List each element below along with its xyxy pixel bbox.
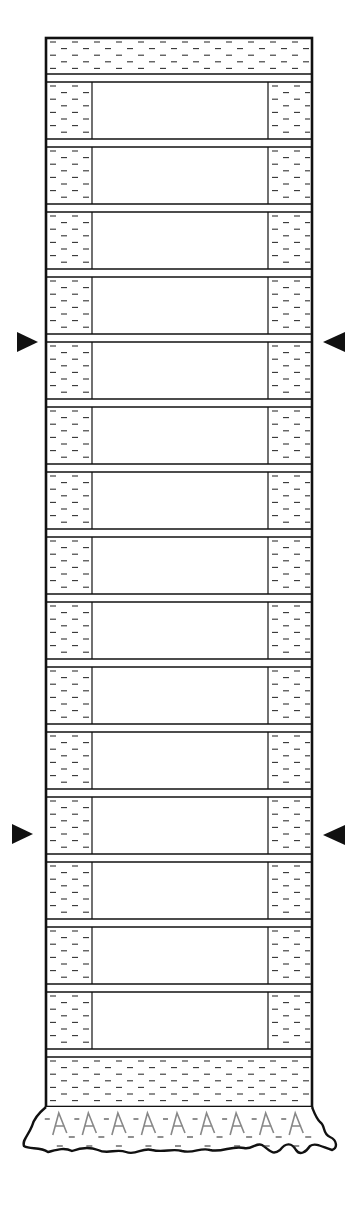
column-cell bbox=[46, 212, 312, 269]
column-frame bbox=[46, 38, 312, 1107]
cell-right-fill bbox=[272, 346, 310, 392]
cell-left-fill bbox=[50, 866, 89, 912]
column-cell bbox=[46, 82, 312, 139]
stratigraphic-column-diagram bbox=[0, 0, 345, 1221]
column-cell bbox=[46, 472, 312, 529]
right-pointing-triangle-icon bbox=[12, 824, 33, 844]
top-clay-band bbox=[50, 42, 309, 68]
cell-left-fill bbox=[50, 996, 89, 1042]
cell-right-fill bbox=[272, 476, 310, 522]
cell-left-fill bbox=[50, 281, 89, 327]
cell-left-fill bbox=[50, 151, 89, 197]
cell-right-fill bbox=[272, 86, 310, 132]
column-cell bbox=[46, 537, 312, 594]
cell-right-fill bbox=[272, 866, 310, 912]
cell-left-fill bbox=[50, 476, 89, 522]
cell-right-fill bbox=[272, 281, 310, 327]
cell-right-fill bbox=[272, 996, 310, 1042]
column-cell bbox=[46, 732, 312, 789]
cell-left-fill bbox=[50, 346, 89, 392]
cell-left-fill bbox=[50, 736, 89, 782]
left-pointing-triangle-icon bbox=[323, 332, 345, 352]
column-cell bbox=[46, 862, 312, 919]
cell-left-fill bbox=[50, 801, 89, 847]
cell-right-fill bbox=[272, 541, 310, 587]
cell-left-fill bbox=[50, 86, 89, 132]
foundation-layer bbox=[24, 1107, 336, 1153]
cell-left-fill bbox=[50, 931, 89, 977]
cell-left-fill bbox=[50, 411, 89, 457]
cell-left-fill bbox=[50, 541, 89, 587]
cell-left-fill bbox=[50, 216, 89, 262]
level-markers bbox=[12, 332, 345, 845]
left-pointing-triangle-icon bbox=[323, 825, 345, 845]
cell-left-fill bbox=[50, 671, 89, 717]
column-cell bbox=[46, 927, 312, 984]
cell-left-fill bbox=[50, 606, 89, 652]
cell-right-fill bbox=[272, 606, 310, 652]
column-cell bbox=[46, 602, 312, 659]
right-pointing-triangle-icon bbox=[17, 332, 38, 352]
cell-right-fill bbox=[272, 801, 310, 847]
bottom-clay-band bbox=[50, 1061, 309, 1101]
column-cell bbox=[46, 342, 312, 399]
cell-right-fill bbox=[272, 671, 310, 717]
cell-right-fill bbox=[272, 931, 310, 977]
column-cell bbox=[46, 147, 312, 204]
column-cell bbox=[46, 992, 312, 1049]
column-cell bbox=[46, 667, 312, 724]
column-cell bbox=[46, 277, 312, 334]
column-cell bbox=[46, 797, 312, 854]
column-cell bbox=[46, 407, 312, 464]
cell-right-fill bbox=[272, 411, 310, 457]
cell-right-fill bbox=[272, 736, 310, 782]
cell-right-fill bbox=[272, 151, 310, 197]
cell-right-fill bbox=[272, 216, 310, 262]
